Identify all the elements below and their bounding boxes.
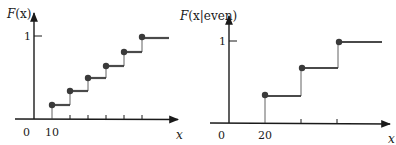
figure-canvas: F(x) 1 0 10 x F(x|even) 1 0 20 x [0,0,396,145]
left-point-5 [121,49,127,55]
right-x-ticks [301,119,337,123]
left-point-3 [85,75,91,81]
right-point-3 [336,39,342,45]
right-point-1 [262,92,268,98]
left-x-ticks [70,115,142,119]
right-y-axis-label: F(x|even) [179,9,237,23]
left-point-2 [67,88,73,94]
right-point-2 [299,65,305,71]
left-y-axis-label: F(x) [6,7,31,21]
left-point-6 [139,34,145,40]
left-step-series [49,34,169,119]
right-xtick-label: 20 [258,129,272,142]
right-ytick-label: 1 [219,35,226,48]
right-x-axis [210,123,390,124]
left-origin-label: 0 [23,126,30,139]
left-x-axis [15,119,178,120]
left-ytick-label: 1 [24,30,31,43]
left-x-axis-label: x [176,128,183,142]
right-chart: F(x|even) 1 0 20 x [179,9,395,145]
left-chart: F(x) 1 0 10 x [6,7,183,142]
left-xtick-label: 10 [45,126,59,139]
right-step-series [262,39,382,123]
right-origin-label: 0 [218,129,225,142]
left-point-1 [49,102,55,108]
left-point-4 [103,63,109,69]
right-x-axis-label: x [388,132,395,145]
